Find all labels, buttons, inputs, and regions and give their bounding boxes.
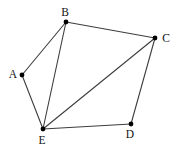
edge-C-D	[131, 38, 155, 124]
vertex-label-A: A	[9, 68, 18, 80]
vertex-C	[153, 36, 158, 41]
vertex-label-E: E	[38, 134, 45, 146]
vertex-B	[64, 20, 69, 25]
vertex-E	[41, 127, 46, 132]
edge-B-C	[66, 22, 155, 38]
vertex-D	[129, 122, 134, 127]
vertex-label-B: B	[61, 6, 69, 18]
vertex-label-C: C	[162, 32, 170, 44]
vertex-A	[20, 73, 25, 78]
graph-canvas: ABCDE	[0, 0, 177, 152]
edge-D-E	[43, 124, 131, 129]
edge-A-B	[22, 22, 66, 75]
edge-E-A	[22, 75, 43, 129]
vertex-label-D: D	[126, 128, 134, 140]
graph-diagram: ABCDE	[0, 0, 177, 152]
